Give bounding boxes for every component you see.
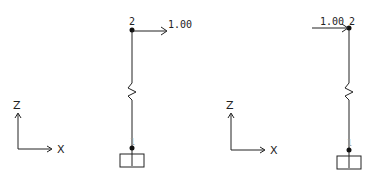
- structure-diagram: Z X 2 1 1.00 Z X 2 1 1.0: [0, 0, 377, 188]
- node-label-bottom: 1: [347, 139, 352, 148]
- load-value: 1.00: [168, 19, 192, 30]
- node-label-bottom: 1: [130, 138, 135, 147]
- load-value: 1.00: [320, 16, 344, 27]
- column-right: 2 1 1.00: [312, 16, 361, 169]
- node-2: [130, 28, 135, 33]
- axis-triad-right: Z X: [226, 99, 278, 157]
- axis-triad-left: Z X: [13, 99, 65, 156]
- axis-label-z: Z: [13, 99, 21, 112]
- axis-label-x: X: [57, 143, 65, 156]
- axis-label-x: X: [270, 144, 278, 157]
- spring-icon: [128, 83, 136, 100]
- axis-label-z: Z: [226, 99, 234, 112]
- node-label-top: 2: [129, 16, 135, 27]
- node-label-top: 2: [349, 16, 355, 27]
- node-1: [347, 148, 352, 153]
- column-left: 2 1 1.00: [120, 16, 192, 167]
- spring-icon: [345, 83, 353, 100]
